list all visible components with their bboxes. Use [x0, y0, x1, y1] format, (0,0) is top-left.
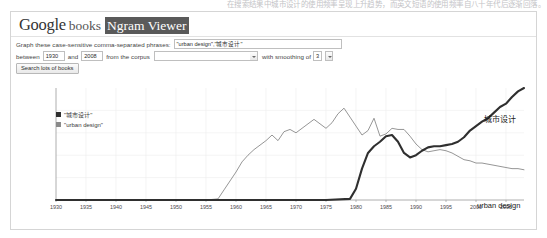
legend-swatch-icon: [56, 112, 61, 117]
corpus-label: from the corpus: [106, 52, 150, 61]
svg-text:1990: 1990: [410, 204, 422, 210]
svg-text:1940: 1940: [110, 204, 122, 210]
svg-text:1975: 1975: [320, 204, 332, 210]
corpus-chevron-down-icon[interactable]: [250, 51, 258, 61]
corpus-select[interactable]: [154, 51, 251, 61]
svg-text:1970: 1970: [290, 204, 302, 210]
end-year-input[interactable]: 2008: [81, 51, 103, 61]
ngram-viewer-title: Ngram Viewer: [105, 17, 189, 34]
series-end-label-english: urban design: [477, 201, 520, 210]
smoothing-label: with smoothing of: [262, 52, 311, 61]
series-end-label-chinese: 城市设计: [484, 113, 516, 124]
svg-text:1995: 1995: [440, 204, 452, 210]
start-year-input[interactable]: 1930: [43, 51, 65, 61]
smoothing-chevron-down-icon[interactable]: [325, 51, 333, 61]
chart-legend: "城市设计" "urban design": [56, 109, 103, 129]
google-logo[interactable]: Google: [19, 15, 66, 34]
svg-text:1965: 1965: [260, 204, 272, 210]
range-row: between1930and2008from the corpuswith sm…: [16, 51, 333, 61]
phrases-input[interactable]: "urban design","城市设计": [174, 39, 342, 49]
svg-text:1960: 1960: [230, 204, 242, 210]
legend-item-english[interactable]: "urban design": [56, 119, 103, 129]
legend-swatch-icon: [56, 122, 61, 127]
ngram-viewer-card: GooglebooksNgram Viewer Graph these case…: [10, 11, 537, 230]
svg-text:1930: 1930: [50, 204, 62, 210]
legend-item-chinese[interactable]: "城市设计": [56, 109, 103, 119]
phrases-label: Graph these case-sensitive comma-separat…: [16, 40, 171, 49]
svg-text:1955: 1955: [200, 204, 212, 210]
smoothing-input[interactable]: 3: [313, 51, 322, 61]
svg-text:1985: 1985: [380, 204, 392, 210]
submit-row: Search lots of books: [16, 63, 79, 74]
ngram-chart: "城市设计" "urban design" 城市设计 urban design …: [11, 80, 536, 229]
svg-text:1980: 1980: [350, 204, 362, 210]
between-label: between: [16, 52, 40, 61]
chart-svg: 1930193519401945195019551960196519701975…: [11, 80, 536, 229]
phrases-row: Graph these case-sensitive comma-separat…: [16, 39, 342, 49]
svg-text:1950: 1950: [170, 204, 182, 210]
books-logo[interactable]: books: [69, 18, 101, 33]
search-lots-of-books-button[interactable]: Search lots of books: [16, 63, 79, 74]
page-top-text: 在搜索结果中城市设计的使用频率呈现上升趋势，而英文短语的使用频率自八十年代后逐渐…: [0, 0, 547, 9]
masthead: GooglebooksNgram Viewer: [19, 15, 189, 34]
svg-text:1935: 1935: [80, 204, 92, 210]
and-label: and: [68, 52, 78, 61]
screenshot-root: 在搜索结果中城市设计的使用频率呈现上升趋势，而英文短语的使用频率自八十年代后逐渐…: [0, 0, 547, 238]
legend-label: "urban design": [64, 120, 103, 130]
header-divider: [11, 36, 536, 37]
svg-text:1945: 1945: [140, 204, 152, 210]
